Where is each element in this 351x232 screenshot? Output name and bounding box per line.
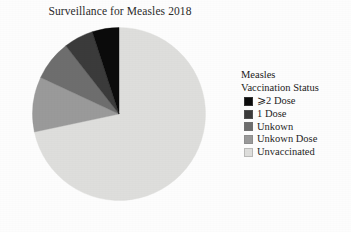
legend-item[interactable]: ⩾2 Dose (244, 95, 349, 108)
legend-color-swatch (244, 122, 253, 131)
pie-svg (32, 27, 206, 201)
legend-item-list: ⩾2 Dose1 DoseUnkownUnkown DoseUnvaccinat… (241, 95, 349, 159)
legend-item-label: Unkown (257, 121, 293, 134)
legend-title-line-2: Vaccination Status (241, 82, 349, 95)
page-title: Surveillance for Measles 2018 (0, 5, 240, 17)
legend-item-label: ⩾2 Dose (257, 95, 295, 108)
legend-color-swatch (244, 148, 253, 157)
legend-color-swatch (244, 110, 253, 119)
legend-item-label: Unvaccinated (257, 146, 315, 159)
pie-chart-figure: Surveillance for Measles 2018 Measles Va… (0, 0, 351, 232)
pie-slice-group (32, 28, 205, 201)
legend-item[interactable]: Unkown (244, 121, 349, 134)
legend-item-label: Unkown Dose (257, 133, 317, 146)
legend-title-line-1: Measles (241, 69, 349, 82)
legend-item[interactable]: 1 Dose (244, 108, 349, 121)
pie-chart (32, 27, 206, 201)
legend-color-swatch (244, 97, 253, 106)
legend-color-swatch (244, 135, 253, 144)
legend: Measles Vaccination Status ⩾2 Dose1 Dose… (241, 69, 349, 159)
legend-item-label: 1 Dose (257, 108, 286, 121)
legend-item[interactable]: Unkown Dose (244, 133, 349, 146)
legend-item[interactable]: Unvaccinated (244, 146, 349, 159)
